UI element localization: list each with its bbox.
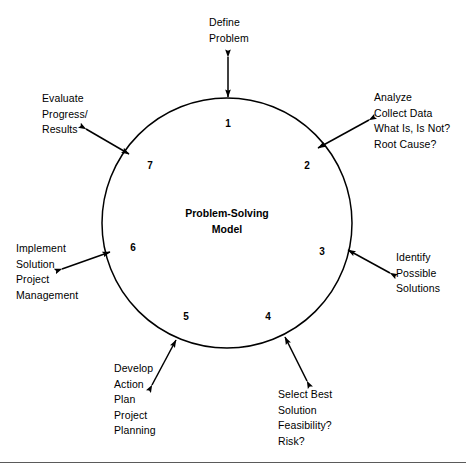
step-number-7: 7 bbox=[143, 160, 157, 171]
step-label-2-line1: Analyze bbox=[374, 90, 450, 106]
step-label-4-line3: Feasibility? bbox=[278, 418, 332, 434]
step-label-1: Define Problem bbox=[209, 15, 249, 46]
step-label-3-line3: Solutions bbox=[396, 281, 440, 297]
step-label-3-line1: Identify bbox=[396, 250, 440, 266]
step-label-3: Identify Possible Solutions bbox=[396, 250, 440, 297]
step-label-2: Analyze Collect Data What Is, Is Not? Ro… bbox=[374, 90, 450, 152]
diagram-page: Problem-Solving Model 1 2 3 4 5 6 7 Defi… bbox=[0, 0, 466, 474]
step-label-2-line2: Collect Data bbox=[374, 106, 450, 122]
step-label-7-line3: Results bbox=[42, 122, 88, 138]
step-label-5-line2: Action bbox=[114, 377, 156, 393]
step-label-6-line3: Project bbox=[16, 272, 78, 288]
step-label-4-line1: Select Best bbox=[278, 387, 332, 403]
step-label-4: Select Best Solution Feasibility? Risk? bbox=[278, 387, 332, 449]
step-label-5: Develop Action Plan Project Planning bbox=[114, 361, 156, 439]
footer-divider bbox=[0, 462, 466, 463]
step-label-6-line1: Implement bbox=[16, 241, 78, 257]
step-number-6: 6 bbox=[126, 242, 140, 253]
step-label-7: Evaluate Progress/ Results bbox=[42, 91, 88, 138]
problem-solving-model-svg bbox=[0, 0, 466, 474]
step-label-2-line4: Root Cause? bbox=[374, 137, 450, 153]
step-label-6-line2: Solution bbox=[16, 257, 78, 273]
step-number-3: 3 bbox=[315, 246, 329, 257]
step-label-5-line4: Project bbox=[114, 408, 156, 424]
step-label-4-line2: Solution bbox=[278, 403, 332, 419]
step-label-4-line4: Risk? bbox=[278, 434, 332, 450]
center-title: Problem-Solving Model bbox=[147, 205, 307, 237]
step-number-5: 5 bbox=[179, 311, 193, 322]
step-label-6: Implement Solution Project Management bbox=[16, 241, 78, 303]
step-label-7-line2: Progress/ bbox=[42, 107, 88, 123]
double-headed-arrow-step-2 bbox=[318, 120, 369, 148]
step-number-4: 4 bbox=[261, 311, 275, 322]
double-headed-arrow-step-7 bbox=[86, 129, 129, 154]
step-label-2-line3: What Is, Is Not? bbox=[374, 121, 450, 137]
step-number-1: 1 bbox=[221, 118, 235, 129]
step-label-5-line5: Planning bbox=[114, 423, 156, 439]
step-number-2: 2 bbox=[300, 160, 314, 171]
center-title-line2: Model bbox=[147, 221, 307, 237]
step-label-6-line4: Management bbox=[16, 288, 78, 304]
step-label-1-line1: Define bbox=[209, 15, 249, 31]
double-headed-arrow-step-3 bbox=[348, 250, 390, 273]
step-label-1-line2: Problem bbox=[209, 31, 249, 47]
center-title-line1: Problem-Solving bbox=[147, 205, 307, 221]
step-label-3-line2: Possible bbox=[396, 266, 440, 282]
step-label-5-line1: Develop bbox=[114, 361, 156, 377]
step-label-7-line1: Evaluate bbox=[42, 91, 88, 107]
double-headed-arrow-step-4 bbox=[285, 337, 307, 381]
step-label-5-line3: Plan bbox=[114, 392, 156, 408]
